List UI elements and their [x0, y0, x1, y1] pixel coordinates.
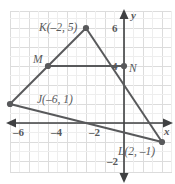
point-l [159, 139, 165, 145]
y-axis-arrow-down [120, 173, 129, 183]
y-tick-label-4: 4 [112, 61, 118, 72]
point-m [45, 63, 51, 69]
point-label-k: K(–2, 5) [39, 22, 77, 34]
point-label-l: L(2, –1) [118, 146, 155, 158]
x-tick-label--2: –2 [89, 127, 100, 138]
x-axis-name: x [164, 126, 170, 137]
point-label-j: J(–6, 1) [37, 94, 73, 106]
x-tick-label--6: –6 [13, 127, 24, 138]
point-n [121, 63, 127, 69]
y-axis-name: y [131, 10, 136, 21]
y-tick-label--2: –2 [107, 156, 118, 167]
x-tick-label--4: –4 [51, 127, 62, 138]
point-j [7, 101, 13, 107]
coordinate-plane-figure: K(–2, 5) M N J(–6, 1) L(2, –1) –6 –4 –2 … [0, 0, 175, 184]
point-label-m: M [33, 54, 43, 66]
point-k [83, 25, 89, 31]
y-tick-label-6: 6 [112, 23, 118, 34]
point-label-n: N [129, 63, 137, 75]
